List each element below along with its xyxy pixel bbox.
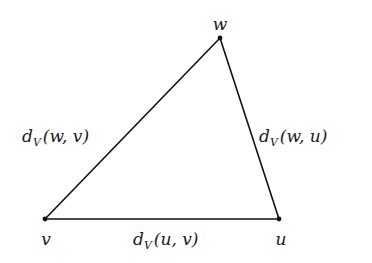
edge-label-w-u: dV(w, u): [259, 126, 327, 149]
edge-w-u: [220, 38, 279, 219]
vertex-label-v: v: [41, 229, 51, 249]
vertex-w: [218, 36, 223, 41]
vertex-label-w: w: [213, 14, 228, 34]
diagram-svg: w v u dV(w, v) dV(w, u) dV(u, v): [0, 0, 372, 263]
vertex-label-u: u: [276, 229, 287, 249]
vertex-v: [43, 217, 48, 222]
vertex-u: [277, 217, 282, 222]
edge-label-w-v: dV(w, v): [22, 126, 89, 149]
triangle-diagram: w v u dV(w, v) dV(w, u) dV(u, v): [0, 0, 372, 263]
edge-label-u-v: dV(u, v): [133, 229, 198, 252]
